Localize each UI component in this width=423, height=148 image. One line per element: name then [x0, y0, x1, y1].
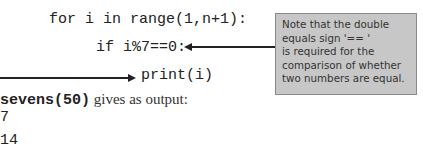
- arrow-line: [190, 46, 276, 48]
- code-line-if: if i%7==0:: [96, 40, 186, 55]
- code-line-print: print(i): [141, 68, 213, 83]
- output-value: 7: [0, 110, 9, 125]
- output-value: 14: [0, 133, 18, 148]
- arrow-line: [0, 77, 128, 79]
- note-line: comparison of whether: [282, 59, 410, 73]
- note-callout: Note that the double equals sign '== ' i…: [275, 13, 417, 95]
- function-call: sevens(50): [0, 92, 90, 109]
- note-line: two numbers are equal.: [282, 72, 410, 86]
- note-line: equals sign '== ': [282, 32, 410, 46]
- output-caption: sevens(50) gives as output:: [0, 90, 188, 108]
- arrowhead-right-icon: [128, 74, 136, 82]
- note-line: is required for the: [282, 45, 410, 59]
- caption-text: gives as output:: [90, 91, 188, 107]
- note-line: Note that the double: [282, 18, 410, 32]
- code-line-for: for i in range(1,n+1):: [49, 12, 247, 27]
